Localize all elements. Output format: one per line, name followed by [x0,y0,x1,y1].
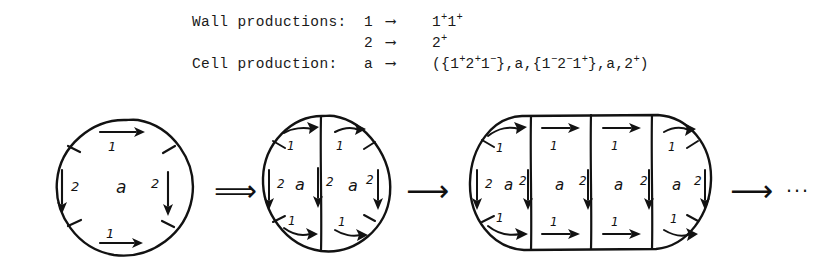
term-base: ) [640,56,649,72]
step-3-four-cells: 1 2 1 a 2 1 1 a [462,108,724,268]
wall-label-left: 2 [71,179,79,194]
term-base: },a,2 [588,56,634,72]
wall-label-top: 1 [668,140,676,154]
cell-production-row: Cell production: a ⟶ ({1+2+1−},a,{1−2−1+… [192,54,649,75]
term-base: 2 [466,56,475,72]
cell-symbol: a [348,176,358,195]
wall-label-right: 2 [151,176,159,191]
wall-label-shared: 2 [579,174,587,188]
term-base: 1 [481,56,490,72]
wall-label-top: 1 [287,139,295,153]
term-base: 1 [432,14,441,30]
cell-symbol: a [504,176,513,194]
wall-label-shared: 2 [640,174,648,188]
operator-single-arrow: ⟶ [406,176,449,206]
wall-label-bottom: 1 [611,215,619,229]
wall-production-row-2: 2 ⟶ 2+ [192,33,649,54]
arrow-glyph: ⟶ [386,33,432,54]
derivation-sequence: 1 2 2 1 a ⟹ [0,108,834,273]
cell-symbol: a [672,176,681,194]
operator-double-arrow: ⟹ [214,176,257,206]
wall-productions-label: Wall productions: [192,12,364,33]
arrow-glyph: ⟶ [386,12,432,33]
cell-symbol: a [614,176,623,194]
wall-label-bottom: 1 [496,211,504,225]
cell-symbol: a [555,176,564,194]
term-base: },a,{1 [496,56,551,72]
wall-label-left: 2 [485,177,493,191]
step-2-two-cells: 1 2 1 a 2 1 1 a [254,108,399,268]
wall-label-shared: 2 [326,175,334,189]
wall-label-left: 2 [277,177,285,191]
wall-rule-2-rhs: 2+ [432,33,447,54]
wall-label-right: 2 [694,174,702,188]
cell-production-label: Cell production: [192,54,364,75]
wall-label-bottom: 1 [550,215,558,229]
wall-label-bottom: 1 [338,215,346,229]
cell-rule-rhs: ({1+2+1−},a,{1−2−1+},a,2+) [432,54,649,75]
term-base: 2 [432,35,441,51]
wall-rule-2-lhs: 2 [364,33,386,54]
term-sup: + [456,11,462,23]
production-rules-block: Wall productions: 1 ⟶ 1+1+ 2 ⟶ 2+ Cell p… [192,12,649,75]
wall-label-top: 1 [108,139,116,154]
wall-label-bottom: 1 [670,212,678,226]
term-base: 2 [557,56,566,72]
term-base: ({1 [432,56,459,72]
wall-label-top: 1 [611,139,619,153]
wall-label-top: 1 [336,139,344,153]
cell-symbol: a [295,175,305,194]
wall-label-right: 2 [366,173,374,187]
step-1-single-cell: 1 2 2 1 a [44,108,209,268]
wall-label-bottom: 1 [288,214,296,228]
figure-root: Wall productions: 1 ⟶ 1+1+ 2 ⟶ 2+ Cell p… [0,0,834,273]
wall-rule-1-lhs: 1 [364,12,386,33]
arrow-glyph: ⟶ [386,54,432,75]
cell-rule-lhs: a [364,54,386,75]
wall-label-top: 1 [496,141,504,155]
wall-rule-1-rhs: 1+1+ [432,12,463,33]
wall-label-shared: 2 [519,174,527,188]
term-sup: + [441,32,447,44]
wall-label-top: 1 [550,139,558,153]
cell-symbol: a [116,177,126,197]
operator-single-arrow: ⟶ [730,176,773,206]
wall-label-bottom: 1 [106,226,114,241]
wall-production-row-1: Wall productions: 1 ⟶ 1+1+ [192,12,649,33]
term-base: 1 [573,56,582,72]
ellipsis: ··· [786,182,810,201]
